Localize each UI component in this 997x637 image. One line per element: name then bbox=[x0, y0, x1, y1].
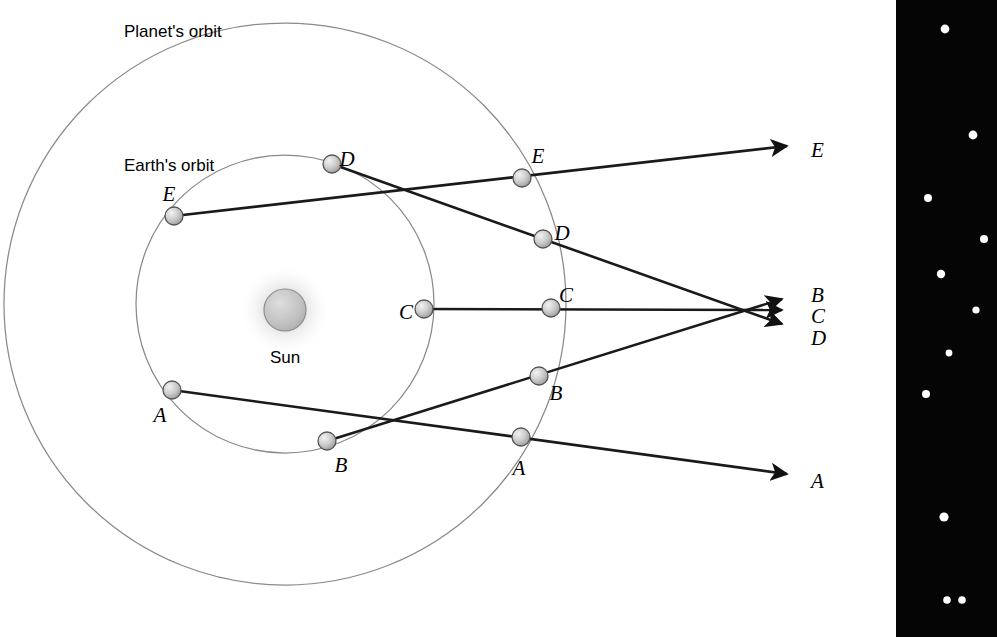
sun-label: Sun bbox=[270, 348, 300, 368]
earth-body-B bbox=[318, 432, 336, 450]
planet-label-E: E bbox=[531, 144, 545, 168]
star-12 bbox=[958, 596, 966, 604]
earth-orbit-label: Earth's orbit bbox=[124, 156, 214, 176]
figure-canvas: ABCDEABCDEEBCDA Planet's orbit Earth's o… bbox=[0, 0, 997, 637]
line-of-sight-A bbox=[172, 390, 787, 474]
sun-group bbox=[239, 264, 331, 356]
star-5 bbox=[972, 306, 979, 313]
star-11 bbox=[943, 596, 951, 604]
star-10 bbox=[939, 512, 948, 521]
planet-label-B: B bbox=[550, 381, 563, 405]
direction-label-C: C bbox=[811, 304, 826, 328]
planet-body-C bbox=[542, 299, 560, 317]
earth-body-D bbox=[323, 155, 341, 173]
star-0 bbox=[941, 25, 950, 34]
sky-panel-background bbox=[896, 0, 997, 637]
star-7 bbox=[922, 390, 930, 398]
star-4 bbox=[937, 270, 945, 278]
earth-label-A: A bbox=[152, 403, 167, 427]
planet-label-A: A bbox=[511, 456, 526, 480]
line-of-sight-B bbox=[327, 299, 782, 441]
planet-body-D bbox=[534, 230, 552, 248]
direction-label-A: A bbox=[809, 469, 824, 493]
planet-label-D: D bbox=[553, 221, 569, 245]
line-of-sight-C bbox=[424, 309, 782, 310]
star-1 bbox=[969, 131, 978, 140]
earth-body-A bbox=[163, 381, 181, 399]
earth-body-E bbox=[165, 207, 183, 225]
star-2 bbox=[924, 194, 932, 202]
planet-label-C: C bbox=[559, 283, 574, 307]
planet-body-B bbox=[530, 367, 548, 385]
earth-label-B: B bbox=[335, 453, 348, 477]
earth-label-D: D bbox=[338, 147, 354, 171]
planet-orbit-label: Planet's orbit bbox=[124, 22, 222, 42]
earth-label-C: C bbox=[399, 300, 414, 324]
sky-panel-group bbox=[896, 0, 997, 637]
planet-body-A bbox=[512, 428, 530, 446]
retrograde-motion-diagram: ABCDEABCDEEBCDA bbox=[0, 0, 997, 637]
earth-body-C bbox=[415, 300, 433, 318]
direction-label-D: D bbox=[810, 326, 826, 350]
direction-label-E: E bbox=[810, 138, 824, 162]
earth-label-E: E bbox=[162, 182, 176, 206]
star-3 bbox=[980, 235, 988, 243]
star-6 bbox=[946, 350, 953, 357]
sun-body bbox=[264, 289, 306, 331]
planet-body-E bbox=[513, 169, 531, 187]
